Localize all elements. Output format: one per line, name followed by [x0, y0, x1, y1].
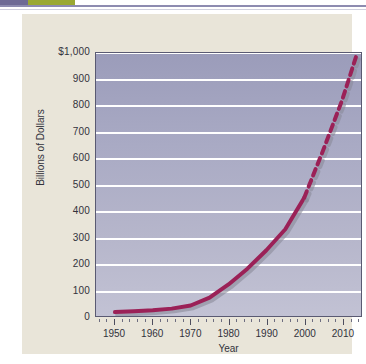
y-tick-label: 100: [30, 285, 90, 296]
x-minor-tick: [145, 319, 146, 322]
series-line-actual: [115, 198, 304, 312]
x-minor-tick: [328, 319, 329, 322]
header-separator: [0, 9, 366, 10]
header-rule: [0, 5, 366, 7]
x-minor-tick: [297, 319, 298, 322]
x-minor-tick: [198, 319, 199, 322]
x-tick-mark: [305, 319, 306, 325]
x-minor-tick: [99, 319, 100, 322]
x-tick-mark: [114, 319, 115, 325]
x-minor-tick: [183, 319, 184, 322]
x-tick-mark: [229, 319, 230, 325]
page-header-strip: [0, 0, 366, 7]
x-minor-tick: [244, 319, 245, 322]
x-minor-tick: [206, 319, 207, 322]
y-tick-label: 200: [30, 258, 90, 269]
x-tick-mark: [267, 319, 268, 325]
x-minor-tick: [351, 319, 352, 322]
x-minor-tick: [175, 319, 176, 322]
y-tick-label: 0: [30, 311, 90, 322]
chart-series-layer: [96, 53, 361, 316]
x-axis-ticks: 1950196019701980199020002010: [95, 319, 362, 341]
y-tick-label: $1,000: [30, 46, 90, 57]
x-minor-tick: [274, 319, 275, 322]
x-tick-mark: [152, 319, 153, 325]
x-minor-tick: [251, 319, 252, 322]
x-minor-tick: [160, 319, 161, 322]
x-minor-tick: [221, 319, 222, 322]
x-minor-tick: [236, 319, 237, 322]
x-minor-tick: [290, 319, 291, 322]
y-axis-title: Billions of Dollars: [35, 83, 46, 213]
x-tick-mark: [190, 319, 191, 325]
x-minor-tick: [259, 319, 260, 322]
x-tick-label: 2010: [320, 328, 366, 339]
x-axis-title: Year: [95, 343, 362, 354]
plot-area: [95, 52, 362, 317]
x-minor-tick: [312, 319, 313, 322]
x-minor-tick: [106, 319, 107, 322]
x-tick-mark: [343, 319, 344, 325]
x-minor-tick: [335, 319, 336, 322]
x-minor-tick: [358, 319, 359, 322]
x-minor-tick: [167, 319, 168, 322]
series-line-projected: [304, 53, 357, 198]
y-tick-label: 300: [30, 232, 90, 243]
x-minor-tick: [122, 319, 123, 322]
x-minor-tick: [213, 319, 214, 322]
x-minor-tick: [282, 319, 283, 322]
x-minor-tick: [137, 319, 138, 322]
x-minor-tick: [129, 319, 130, 322]
x-minor-tick: [320, 319, 321, 322]
figure-panel: $1,0009008007006005004003002001000 Billi…: [22, 14, 352, 354]
